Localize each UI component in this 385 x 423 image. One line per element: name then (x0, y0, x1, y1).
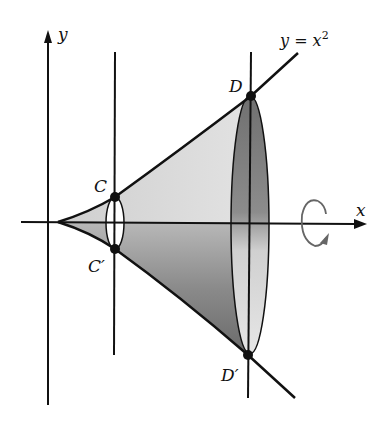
solid-upper-shading (58, 96, 251, 222)
point-d-prime-label: D′ (220, 365, 239, 385)
point-d-label: D (228, 76, 243, 96)
point-c (110, 192, 120, 202)
y-axis-label: y (57, 24, 68, 44)
rotation-arrow-top (318, 201, 326, 214)
point-c-label: C (94, 176, 107, 196)
x-axis-arrow-icon (354, 219, 367, 229)
solid-lower-shading (58, 222, 251, 355)
point-d (246, 91, 256, 101)
point-c-prime (110, 244, 120, 254)
vertical-line-c (114, 52, 115, 355)
x-axis-label: x (356, 200, 366, 220)
curve-equation-label: y = x2 (279, 29, 329, 50)
point-c-prime-label: C′ (88, 256, 105, 276)
point-d-prime (243, 350, 253, 360)
y-axis-arrow-icon (44, 30, 52, 43)
rotation-arrowhead-icon (320, 233, 329, 245)
diagram-canvas: y x y = x2 C C′ D D′ (0, 0, 385, 423)
